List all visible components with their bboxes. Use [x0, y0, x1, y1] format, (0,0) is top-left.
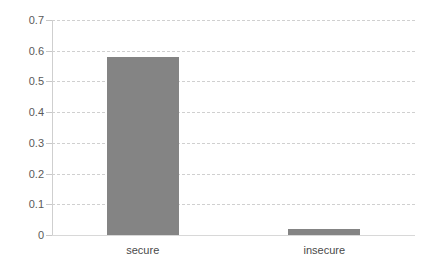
y-axis-tick	[46, 112, 52, 113]
y-axis-tick-label: 0.3	[29, 137, 44, 148]
gridline	[52, 20, 415, 21]
bar-chart: 00.10.20.30.40.50.60.7 secureinsecure	[0, 0, 421, 272]
y-axis-tick	[46, 174, 52, 175]
y-axis-tick-label: 0.2	[29, 168, 44, 179]
y-axis-tick	[46, 81, 52, 82]
y-axis-tick-label: 0.6	[29, 45, 44, 56]
bar-secure	[107, 57, 179, 235]
plot-area	[52, 20, 415, 235]
y-axis-tick	[46, 20, 52, 21]
bar-insecure	[288, 229, 360, 235]
y-axis-tick	[46, 143, 52, 144]
y-axis-tick-label: 0.4	[29, 107, 44, 118]
x-axis-label-insecure: insecure	[264, 245, 384, 256]
y-axis-tick-label: 0.7	[29, 15, 44, 26]
x-axis-label-secure: secure	[83, 245, 203, 256]
y-axis-tick-label: 0.5	[29, 76, 44, 87]
gridline	[52, 51, 415, 52]
y-axis-tick-labels: 00.10.20.30.40.50.60.7	[0, 0, 44, 272]
y-axis-tick-label: 0	[38, 230, 44, 241]
y-axis-tick	[46, 235, 52, 236]
y-axis-tick	[46, 204, 52, 205]
y-axis-tick-label: 0.1	[29, 199, 44, 210]
y-axis-tick	[46, 51, 52, 52]
gridline	[52, 235, 415, 236]
